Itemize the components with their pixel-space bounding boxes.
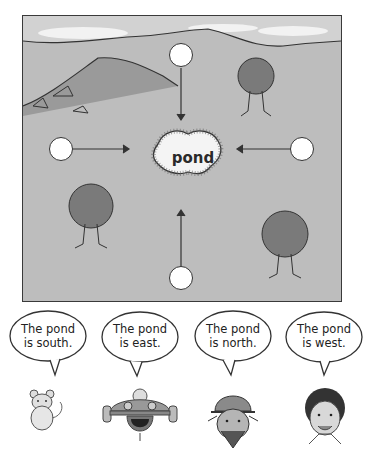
speech-bubble-north: The pondis north.: [193, 310, 273, 362]
bubble-text-line2: is east.: [100, 336, 180, 350]
girl-character: [295, 386, 355, 458]
bubble-text-line2: is south.: [8, 336, 88, 350]
bubble-text-line2: is north.: [193, 336, 273, 350]
mouse-character: [22, 388, 72, 442]
bubble-text-line1: The pond: [284, 322, 364, 336]
east-circle[interactable]: [290, 137, 314, 161]
speech-bubble-south: The pondis south.: [8, 310, 88, 362]
speech-bubble-west: The pondis west.: [284, 310, 364, 362]
man-with-cap-character: [203, 386, 263, 458]
speech-bubble-east: The pondis east.: [100, 310, 180, 362]
bubble-text-line1: The pond: [193, 322, 273, 336]
bubble-text-line1: The pond: [100, 322, 180, 336]
robot-character: [100, 386, 180, 450]
pond-label: pond: [169, 149, 217, 167]
bubble-text-line2: is west.: [284, 336, 364, 350]
south-circle[interactable]: [169, 266, 193, 290]
north-circle[interactable]: [169, 43, 193, 67]
bubble-text-line1: The pond: [8, 322, 88, 336]
west-circle[interactable]: [49, 137, 73, 161]
